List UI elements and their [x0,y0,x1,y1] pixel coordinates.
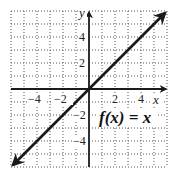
y-tick-label: 2 [79,56,85,70]
x-axis-label: x [152,92,159,107]
y-tick-label: 4 [79,30,85,44]
y-tick-label: −4 [73,134,86,148]
x-tick-label: −4 [28,92,41,106]
x-tick-label: 2 [112,92,118,106]
x-tick-label: −2 [54,92,67,106]
function-graph: −4 −2 2 4 4 2 −2 −4 x y f(x) = x [0,0,174,182]
function-label: f(x) = x [99,108,152,127]
y-axis-label: y [77,5,85,20]
x-tick-labels: −4 −2 2 4 [27,92,145,106]
x-tick-label: 4 [138,92,144,106]
y-tick-label: −2 [73,108,86,122]
